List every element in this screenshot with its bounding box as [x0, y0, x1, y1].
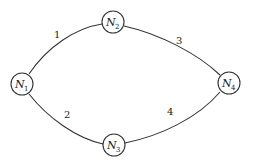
edge-n2-n4: [124, 26, 220, 75]
node-n4-subscript: 4: [231, 84, 236, 92]
edge-n3-n4: [125, 92, 220, 143]
node-n1-subscript: 1: [24, 85, 28, 93]
node-n4: N 4: [218, 72, 240, 94]
edge-label-2: 2: [64, 109, 70, 120]
node-n3: N 3: [103, 134, 125, 156]
node-n2: N 2: [102, 11, 124, 33]
node-n1: N 1: [11, 73, 33, 95]
node-n3-subscript: 3: [116, 146, 120, 154]
edge-label-3: 3: [176, 35, 182, 46]
network-diagram: 1 2 3 4 N 1 N 2 N 3 N 4: [0, 0, 253, 168]
edge-label-1: 1: [54, 29, 60, 40]
node-n2-subscript: 2: [115, 23, 119, 31]
edge-n1-n2: [29, 24, 102, 74]
edge-label-4: 4: [167, 106, 173, 117]
